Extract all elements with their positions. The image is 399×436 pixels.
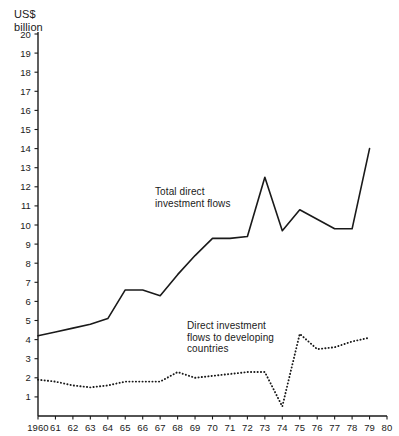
annotation-total-direct-investment-flows: Total direct investment flows [155, 186, 231, 209]
annotation-direct-investment-flows-developing: Direct investment flows to developing co… [187, 320, 274, 355]
plot-area [0, 0, 399, 436]
chart-container: US$ billion 2019181716151413121110987654… [0, 0, 399, 436]
series-line-total-direct-investment-flows [38, 149, 370, 336]
x-axis-tick-marks [38, 416, 387, 420]
